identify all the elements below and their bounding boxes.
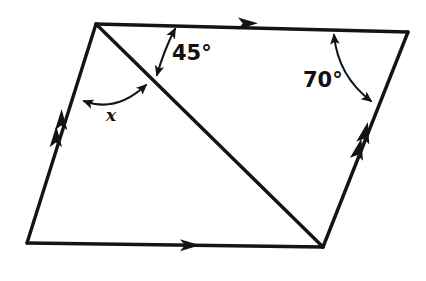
geometry-figure: 45° 70° x [0, 0, 426, 281]
figure-canvas: 45° 70° x [0, 0, 426, 281]
angle-arc-x [84, 85, 146, 105]
arrow-glyph-right-upper [356, 122, 369, 144]
edge-top [96, 24, 408, 32]
label-angle-70: 70° [303, 68, 343, 92]
label-angle-45: 45° [172, 41, 212, 65]
arrow-glyph-right-lower [350, 138, 363, 160]
edge-left [27, 24, 96, 243]
edge-bottom [27, 243, 323, 247]
parallelogram-outline [27, 24, 408, 247]
label-angle-x: x [105, 105, 117, 125]
